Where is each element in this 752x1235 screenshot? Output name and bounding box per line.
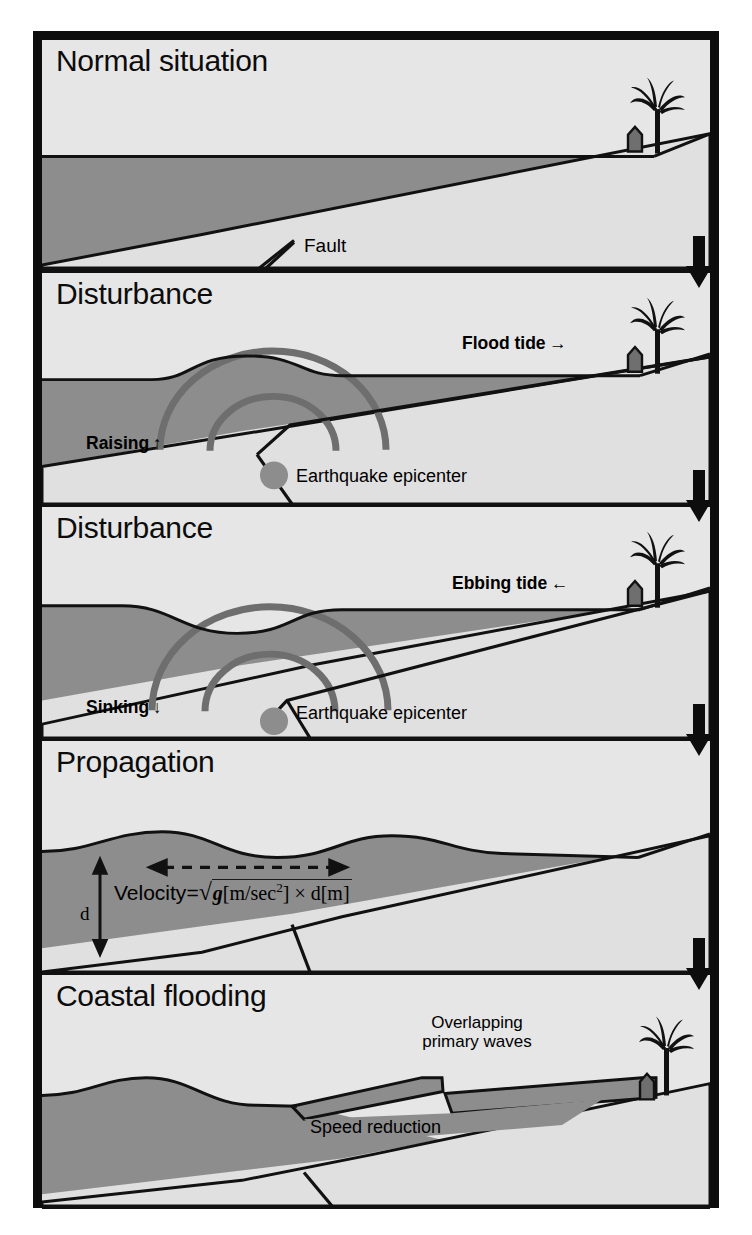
raising-label: Raising ↑ <box>86 433 161 454</box>
epicenter-label-sinking: Earthquake epicenter <box>296 703 467 724</box>
panel-normal-situation: Normal situation Fault <box>42 40 710 273</box>
gravity-symbol: g <box>213 882 223 904</box>
speed-reduction-label: Speed reduction <box>310 1117 441 1138</box>
panel-disturbance-sinking: Disturbance Ebbing tide ← Sinking ↓ Eart… <box>42 507 710 741</box>
panel-coastal-flooding: Coastal flooding Overlapping primary wav… <box>42 975 710 1209</box>
tsunami-stage-diagram: Normal situation Fault <box>33 31 719 1208</box>
sinking-label: Sinking ↓ <box>86 697 161 718</box>
velocity-formula-equals: = <box>186 881 198 904</box>
overlapping-waves-line1: Overlapping <box>387 1013 567 1032</box>
radicand: g[m/sec2] × d[m] <box>212 879 352 905</box>
epicenter-dot <box>260 707 288 735</box>
gravity-unit-exponent: 2 <box>276 880 283 895</box>
depth-label-d: d <box>80 903 90 925</box>
panel-title-coastal-flooding: Coastal flooding <box>56 979 266 1013</box>
epicenter-label-raising: Earthquake epicenter <box>296 466 467 487</box>
fault-label: Fault <box>304 235 346 257</box>
house-icon <box>640 1074 654 1100</box>
ebbing-tide-label: Ebbing tide ← <box>452 573 568 594</box>
panel-title-normal-situation: Normal situation <box>56 44 268 78</box>
panel-title-disturbance-raising: Disturbance <box>56 277 213 311</box>
radical-sign: √ <box>199 879 212 905</box>
overlapping-waves-label: Overlapping primary waves <box>387 1013 567 1051</box>
panel-disturbance-raising: Disturbance Flood tide → Raising ↑ Earth… <box>42 273 710 507</box>
gravity-unit-close: ] <box>283 882 290 904</box>
panel-propagation: Propagation d Velocity=√g[m/sec2] × d[m] <box>42 741 710 975</box>
epicenter-dot <box>260 462 288 490</box>
panel-title-disturbance-sinking: Disturbance <box>56 511 213 545</box>
panel-title-propagation: Propagation <box>56 745 215 779</box>
velocity-formula-lhs: Velocity <box>114 881 186 904</box>
flood-tide-label: Flood tide → <box>462 333 567 354</box>
overlapping-waves-line2: primary waves <box>387 1032 567 1051</box>
gravity-unit-open: [m/sec <box>223 882 276 904</box>
velocity-formula: Velocity=√g[m/sec2] × d[m] <box>114 879 352 906</box>
depth-symbol: d <box>311 882 321 904</box>
depth-unit: [m] <box>321 882 350 904</box>
times-symbol: × <box>294 882 305 904</box>
